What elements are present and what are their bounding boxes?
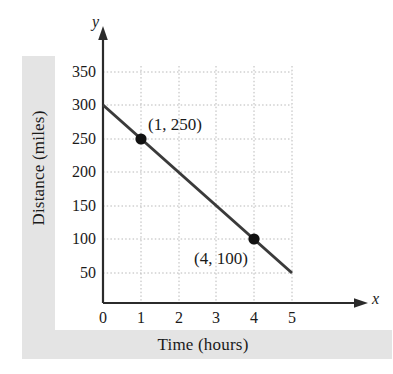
y-tick-label-200: 200 [52, 164, 96, 180]
x-axis-letter: x [372, 291, 379, 307]
point-annotation-1-250: (1, 250) [148, 116, 202, 133]
x-tick-label-2: 2 [167, 310, 191, 326]
data-point-marker-1-250 [135, 133, 146, 144]
x-tick-label-4: 4 [242, 310, 266, 326]
y-axis-letter: y [92, 14, 99, 30]
x-axis-title: Time (hours) [103, 335, 303, 355]
y-axis-arrowhead [98, 26, 108, 40]
data-point-marker-4-100 [248, 233, 259, 244]
plot-canvas [0, 0, 393, 374]
x-axis-arrowhead [354, 298, 368, 308]
point-annotation-4-100: (4, 100) [194, 250, 248, 267]
y-tick-label-250: 250 [52, 131, 96, 147]
y-tick-label-150: 150 [52, 198, 96, 214]
x-tick-label-3: 3 [204, 310, 228, 326]
horizontal-gridlines [103, 72, 292, 273]
graph-figure: 350 300 250 200 150 100 50 0 1 2 3 4 5 y… [0, 0, 393, 374]
y-axis [98, 26, 108, 303]
y-tick-label-300: 300 [52, 97, 96, 113]
y-tick-label-100: 100 [52, 231, 96, 247]
y-tick-label-50: 50 [52, 265, 96, 281]
x-tick-label-1: 1 [129, 310, 153, 326]
x-tick-label-0: 0 [91, 310, 115, 326]
y-tick-label-350: 350 [52, 64, 96, 80]
x-tick-label-5: 5 [280, 310, 304, 326]
x-axis [103, 298, 368, 308]
y-axis-title: Distance (miles) [29, 73, 49, 263]
